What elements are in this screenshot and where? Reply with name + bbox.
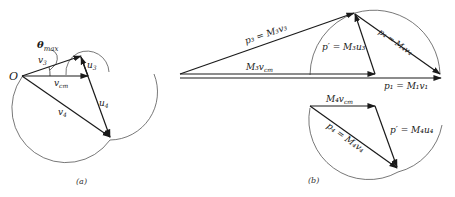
theta-leader — [50, 50, 57, 70]
figure-a: O θmax v3 vcm u3 u4 v4 (a) — [9, 39, 158, 186]
u4-label: u4 — [99, 98, 109, 109]
u4-circle-arc — [12, 74, 158, 163]
m3vcm-label: M₃vcm — [245, 62, 273, 73]
p3-label: p₃ = M₃v₃ — [243, 22, 288, 46]
p4-top-label: p₄ = M₄v₄ — [377, 27, 414, 57]
figure-b: p₃ = M₃v₃ p′ = M₃u₃ p₄ = M₄v₄ M₃vcm p₁ =… — [180, 10, 442, 185]
caption-a: (a) — [76, 177, 87, 186]
vcm-label: vcm — [54, 78, 68, 89]
v3-label: v3 — [38, 55, 47, 66]
m4vcm-label: M₄vcm — [325, 94, 353, 105]
p1-label: p₁ = M₁v₁ — [384, 81, 428, 91]
theta-angle-arc — [49, 67, 50, 76]
diagram-canvas: O θmax v3 vcm u3 u4 v4 (a) p₃ = M₃v₃ p′ … — [0, 0, 455, 197]
caption-b: (b) — [308, 176, 319, 185]
v3-vector — [22, 56, 81, 76]
u3-label: u3 — [87, 60, 97, 71]
theta-max-label: θmax — [37, 39, 58, 53]
v4-label: v4 — [58, 107, 67, 118]
pprime-top-label: p′ = M₃u₃ — [322, 42, 366, 52]
pprime-bottom-vector — [375, 106, 397, 167]
pprime-bottom-label: p′ = M₄u₄ — [390, 125, 434, 135]
origin-label: O — [9, 70, 18, 83]
p4-bottom-label: p₄ = M₄v₄ — [325, 121, 367, 155]
